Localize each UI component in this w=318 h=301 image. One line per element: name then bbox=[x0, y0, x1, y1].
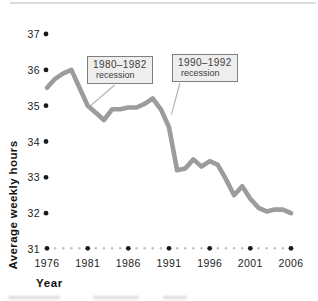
y-axis-tick-dot bbox=[44, 211, 49, 216]
x-axis-minor-dot bbox=[62, 247, 64, 249]
x-axis-minor-dot bbox=[78, 247, 80, 249]
x-axis-title: Year bbox=[36, 277, 63, 289]
x-axis-minor-dot bbox=[152, 247, 154, 249]
x-axis-minor-dot bbox=[257, 247, 259, 249]
x-tick-label: 2006 bbox=[273, 257, 309, 269]
x-axis-minor-dot bbox=[192, 247, 194, 249]
x-tick-label: 1996 bbox=[192, 257, 228, 269]
x-tick-label: 1986 bbox=[110, 257, 146, 269]
x-tick-label: 2001 bbox=[232, 257, 268, 269]
x-axis-minor-dot bbox=[111, 247, 113, 249]
y-tick-label: 37 bbox=[14, 28, 40, 40]
x-axis-minor-dot bbox=[103, 247, 105, 249]
annotation-years: 1990–1992 bbox=[178, 57, 232, 68]
x-axis-minor-dot bbox=[217, 247, 219, 249]
x-axis-minor-dot bbox=[160, 247, 162, 249]
x-tick-label: 1991 bbox=[151, 257, 187, 269]
x-axis-year-dot bbox=[85, 246, 90, 251]
y-axis-tick-dot bbox=[44, 139, 49, 144]
annotation-leader-line bbox=[171, 83, 180, 115]
x-axis-year-dot bbox=[289, 246, 294, 251]
x-axis-minor-dot bbox=[135, 247, 137, 249]
x-axis-minor-dot bbox=[200, 247, 202, 249]
x-axis-minor-dot bbox=[143, 247, 145, 249]
annotation-word: recession bbox=[93, 70, 147, 80]
x-axis-year-dot bbox=[126, 246, 131, 251]
y-tick-label: 31 bbox=[14, 243, 40, 255]
x-axis-minor-dot bbox=[184, 247, 186, 249]
x-axis-minor-dot bbox=[274, 247, 276, 249]
x-axis-minor-dot bbox=[176, 247, 178, 249]
average-weekly-hours-chart: Average weekly hours Year 1980–1982 rece… bbox=[0, 0, 318, 301]
x-axis-year-dot bbox=[207, 246, 212, 251]
annotation-leader-line bbox=[89, 85, 115, 108]
y-axis-tick-dot bbox=[44, 175, 49, 180]
annotation-1980-1982-recession: 1980–1982 recession bbox=[87, 56, 153, 84]
x-axis-minor-dot bbox=[241, 247, 243, 249]
y-tick-label: 32 bbox=[14, 207, 40, 219]
x-axis-minor-dot bbox=[119, 247, 121, 249]
x-axis-minor-dot bbox=[54, 247, 56, 249]
annotation-word: recession bbox=[178, 68, 232, 78]
x-tick-label: 1976 bbox=[29, 257, 65, 269]
weekly-hours-trend-line bbox=[47, 70, 291, 213]
cropped-text-fragment bbox=[8, 296, 60, 299]
x-axis-year-dot bbox=[248, 246, 253, 251]
cropped-text-fragment bbox=[93, 296, 139, 299]
x-axis-minor-dot bbox=[233, 247, 235, 249]
x-axis-minor-dot bbox=[95, 247, 97, 249]
x-axis-minor-dot bbox=[282, 247, 284, 249]
y-tick-label: 33 bbox=[14, 171, 40, 183]
y-tick-label: 34 bbox=[14, 136, 40, 148]
y-axis-tick-dot bbox=[44, 68, 49, 73]
line-chart-canvas bbox=[0, 0, 318, 301]
y-axis-tick-dot bbox=[44, 32, 49, 37]
annotation-1990-1992-recession: 1990–1992 recession bbox=[172, 54, 238, 82]
x-axis-minor-dot bbox=[225, 247, 227, 249]
y-axis-tick-dot bbox=[44, 103, 49, 108]
x-tick-label: 1981 bbox=[70, 257, 106, 269]
x-axis-minor-dot bbox=[70, 247, 72, 249]
x-axis-minor-dot bbox=[265, 247, 267, 249]
annotation-years: 1980–1982 bbox=[93, 59, 147, 70]
x-axis-year-dot bbox=[167, 246, 172, 251]
y-tick-label: 35 bbox=[14, 100, 40, 112]
y-tick-label: 36 bbox=[14, 64, 40, 76]
cropped-text-fragment bbox=[163, 296, 187, 299]
x-axis-year-dot bbox=[45, 246, 50, 251]
